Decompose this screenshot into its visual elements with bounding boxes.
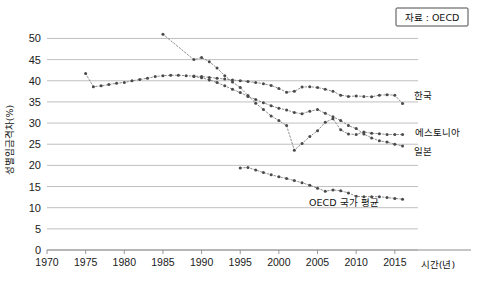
data-point <box>401 198 404 201</box>
data-point <box>339 94 342 97</box>
x-tick-label: 2010 <box>344 256 368 268</box>
series-OECD 국가 평균 <box>239 166 404 201</box>
data-point <box>246 80 249 83</box>
x-axis <box>47 250 471 254</box>
data-point <box>308 85 311 88</box>
data-point <box>277 119 280 122</box>
series-line <box>86 74 403 104</box>
data-point <box>285 91 288 94</box>
data-point <box>285 108 288 111</box>
data-point <box>239 86 242 89</box>
series-label-OECD 국가 평균: OECD 국가 평균 <box>309 197 378 208</box>
data-point <box>92 85 95 88</box>
data-point <box>401 133 404 136</box>
data-point <box>246 166 249 169</box>
x-tick-label: 1975 <box>74 256 98 268</box>
data-point <box>216 77 219 80</box>
y-tick-label: 30 <box>29 117 41 129</box>
data-point <box>339 119 342 122</box>
data-point <box>200 56 203 59</box>
data-point <box>293 179 296 182</box>
x-tick-label: 2005 <box>306 256 330 268</box>
data-point <box>386 93 389 96</box>
y-axis-title: 성별임금격차(%) <box>4 105 15 175</box>
data-point <box>370 132 373 135</box>
data-point <box>254 102 257 105</box>
x-tick-label: 1980 <box>113 256 137 268</box>
data-point <box>208 78 211 81</box>
data-point <box>84 72 87 75</box>
data-point <box>316 108 319 111</box>
data-point <box>277 175 280 178</box>
data-point <box>308 110 311 113</box>
y-tick-label: 40 <box>29 75 41 87</box>
data-point <box>285 177 288 180</box>
data-point <box>131 79 134 82</box>
data-point <box>347 95 350 98</box>
series-label-에스토니아: 에스토니아 <box>415 127 460 138</box>
data-point <box>262 171 265 174</box>
y-tick-label: 25 <box>29 138 41 150</box>
data-point <box>177 74 180 77</box>
data-point <box>378 94 381 97</box>
data-point <box>239 91 242 94</box>
x-tick-label: 1995 <box>229 256 253 268</box>
data-point <box>138 78 141 81</box>
data-point <box>301 112 304 115</box>
data-point <box>192 58 195 61</box>
data-point <box>378 132 381 135</box>
data-point <box>216 67 219 70</box>
data-point <box>316 86 319 89</box>
data-point <box>100 84 103 87</box>
data-point <box>115 82 118 85</box>
data-point <box>331 188 334 191</box>
y-tick-label: 0 <box>35 244 41 256</box>
y-axis-tick-labels: 05101520253035404550 <box>29 32 41 256</box>
data-point <box>362 95 365 98</box>
data-point <box>339 189 342 192</box>
data-point <box>347 124 350 127</box>
data-point <box>239 166 242 169</box>
data-point <box>324 88 327 91</box>
data-point <box>386 133 389 136</box>
y-tick-label: 15 <box>29 181 41 193</box>
data-point <box>301 142 304 145</box>
data-series-layer <box>84 33 404 201</box>
data-point <box>386 196 389 199</box>
data-point <box>262 82 265 85</box>
x-tick-label: 2015 <box>383 256 407 268</box>
y-tick-label: 5 <box>35 223 41 235</box>
data-point <box>301 86 304 89</box>
y-tick-label: 20 <box>29 159 41 171</box>
data-point <box>293 111 296 114</box>
data-point <box>285 124 288 127</box>
data-point <box>370 136 373 139</box>
x-tick-label: 1970 <box>35 256 59 268</box>
data-point <box>301 181 304 184</box>
data-point <box>316 187 319 190</box>
data-point <box>270 114 273 117</box>
data-point <box>331 115 334 118</box>
source-note-box: 자료 : OECD <box>396 8 468 26</box>
data-point <box>401 102 404 105</box>
data-point <box>293 149 296 152</box>
data-point <box>223 84 226 87</box>
data-point <box>208 60 211 63</box>
data-point <box>185 74 188 77</box>
data-point <box>393 94 396 97</box>
series-에스토니아 <box>161 33 404 152</box>
data-point <box>324 112 327 115</box>
data-point <box>362 133 365 136</box>
chart-canvas: 05101520253035404550 1970197519801985199… <box>0 0 478 287</box>
data-point <box>355 133 358 136</box>
series-line <box>163 34 403 150</box>
series-일본 <box>192 75 404 147</box>
data-point <box>308 135 311 138</box>
data-point <box>254 98 257 101</box>
grid-lines <box>47 38 418 250</box>
data-point <box>393 133 396 136</box>
data-point <box>231 81 234 84</box>
data-point <box>254 169 257 172</box>
data-point <box>107 83 110 86</box>
data-point <box>223 74 226 77</box>
